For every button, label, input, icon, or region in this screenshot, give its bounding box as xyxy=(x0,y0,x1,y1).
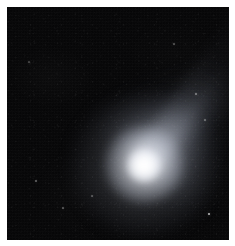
field-star-4 xyxy=(62,207,63,208)
comet-coma-outer-halo xyxy=(70,94,218,236)
field-star-3 xyxy=(35,180,36,181)
field-star-7 xyxy=(91,195,92,196)
field-star-2 xyxy=(195,93,196,94)
comet-tail-streak-right xyxy=(136,38,229,168)
sky-noise-layer-diagonal xyxy=(7,7,229,240)
sky-background-mottling xyxy=(7,7,229,240)
sky-image-plate xyxy=(7,7,229,240)
field-star-6 xyxy=(204,119,205,120)
comet-dust-tail xyxy=(102,7,229,202)
comet-coma-inner-halo xyxy=(105,127,183,203)
comet-tail-streak-left xyxy=(132,7,229,172)
field-star-8 xyxy=(28,61,29,62)
field-star-5 xyxy=(173,43,174,44)
comet-dust-tail-outer-fan xyxy=(91,7,229,220)
sky-noise-layer-speckle xyxy=(7,7,229,240)
screenshot-canvas xyxy=(0,0,235,246)
sky-noise-layer-fine xyxy=(7,7,229,240)
field-star-1 xyxy=(208,213,210,215)
comet-nucleus xyxy=(127,149,161,182)
